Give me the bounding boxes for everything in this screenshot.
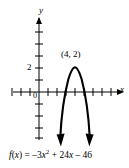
function-equation: f(x) = –3x2 + 24x – 46 [9, 150, 129, 161]
equation-term2-coefficient: 24 [59, 150, 69, 160]
equation-operator-2: – [75, 150, 80, 160]
equation-equals: = [25, 150, 30, 160]
parabola-curve [60, 67, 90, 138]
left-branch-arrowhead [57, 133, 65, 146]
equation-term2-variable: x [69, 150, 73, 160]
equation-operator-1: + [52, 150, 57, 160]
right-branch-arrowhead [86, 133, 94, 146]
equation-term3-constant: 46 [83, 150, 93, 160]
y-axis-label: y [39, 6, 43, 15]
y-axis-arrowhead [36, 17, 42, 24]
equation-term1-exponent: 2 [46, 148, 49, 155]
equation-paren-close: ) [19, 150, 22, 160]
x-axis-label: x [120, 85, 124, 94]
y-tick-label-2: 2 [27, 63, 32, 72]
vertex-point-label: (4, 2) [61, 50, 81, 59]
origin-label: 0 [33, 92, 37, 100]
equation-term1-coefficient: –3 [32, 150, 42, 160]
graph-canvas [0, 0, 129, 150]
parabola-figure: y x 2 0 (4, 2) f(x) = –3x2 + 24x – 46 [0, 0, 129, 168]
